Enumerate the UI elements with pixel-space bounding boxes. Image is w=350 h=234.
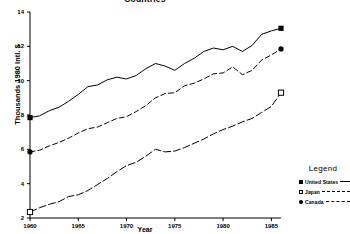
endpoint-marker-canada — [27, 149, 32, 154]
y-tick-label: 12 — [8, 43, 24, 49]
legend: Legend United States Japan Canada — [296, 164, 350, 207]
filled-circle-icon — [296, 200, 305, 204]
endpoint-marker-japan — [27, 209, 32, 214]
legend-label-united-states: United States — [305, 179, 338, 185]
x-tick-label: 1975 — [158, 223, 192, 229]
legend-title: Legend — [296, 164, 350, 173]
x-tick-label: 1965 — [61, 223, 95, 229]
endpoint-marker-united-states — [278, 26, 283, 31]
legend-item-united-states[interactable]: United States — [296, 177, 350, 186]
legend-line-dashdot — [322, 191, 350, 193]
legend-label-japan: Japan — [305, 189, 320, 195]
legend-item-canada[interactable]: Canada — [296, 197, 350, 206]
y-tick-label: 4 — [8, 181, 24, 187]
legend-label-canada: Canada — [305, 199, 324, 205]
y-tick-label: 6 — [8, 146, 24, 152]
legend-line-dashed — [326, 201, 350, 203]
legend-line-solid — [340, 181, 350, 183]
axis-lines — [30, 12, 281, 218]
endpoint-marker-japan — [278, 90, 283, 95]
endpoint-marker-united-states — [27, 115, 32, 120]
chart-container: Countries Thousands 1980 Intl. $ Year 24… — [0, 0, 350, 234]
y-tick-label: 8 — [8, 112, 24, 118]
legend-item-japan[interactable]: Japan — [296, 187, 350, 196]
y-tick-label: 10 — [8, 78, 24, 84]
series-line-united-states — [30, 28, 281, 117]
x-tick-label: 1985 — [254, 223, 288, 229]
x-tick-label: 1980 — [206, 223, 240, 229]
x-tick-label: 1960 — [13, 223, 47, 229]
y-tick-label: 14 — [8, 9, 24, 15]
x-tick-label: 1970 — [110, 223, 144, 229]
series-line-japan — [30, 93, 281, 212]
endpoint-marker-canada — [278, 46, 283, 51]
endpoint-markers-layer — [27, 26, 283, 215]
data-series-layer — [30, 28, 281, 212]
open-square-icon — [296, 190, 305, 194]
y-tick-label: 2 — [8, 215, 24, 221]
filled-square-icon — [296, 180, 305, 184]
series-line-canada — [30, 49, 281, 152]
